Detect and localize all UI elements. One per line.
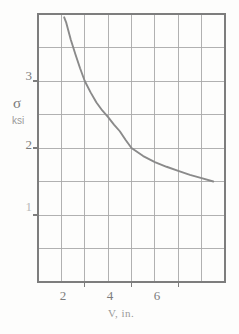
x-tick-label-4: 4 [102, 288, 118, 304]
curve-sigma-vs-v [64, 17, 213, 181]
y-tick-label-2: 2 [16, 137, 32, 153]
y-tick-label-1: 1 [16, 199, 32, 215]
y-axis-units-label: ksi [12, 115, 24, 126]
x-tick-label-6: 6 [149, 288, 165, 304]
y-axis-label: σ [13, 95, 21, 112]
chart-figure: σ ksi V, in. 3 2 1 2 4 6 [0, 0, 239, 334]
x-tick-label-2: 2 [55, 288, 71, 304]
data-curve [64, 17, 213, 181]
x-axis-label: V, in. [108, 307, 134, 319]
y-tick-label-3: 3 [16, 68, 32, 84]
chart-plot-area [0, 0, 239, 334]
axis-ticks [33, 81, 178, 287]
